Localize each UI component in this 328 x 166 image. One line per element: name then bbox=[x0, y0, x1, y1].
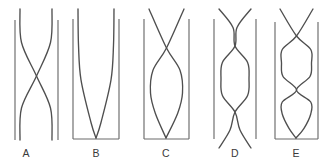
panel-e-strand-1 bbox=[280, 9, 312, 138]
panel-d: D bbox=[214, 9, 256, 159]
panel-c-strand-1 bbox=[149, 9, 183, 138]
panel-b: B bbox=[73, 9, 119, 159]
braid-pattern-figure: ABCDE bbox=[0, 0, 328, 166]
panel-c-label: C bbox=[162, 147, 170, 159]
panel-b-strand-1 bbox=[78, 9, 96, 138]
panel-e-label: E bbox=[292, 147, 299, 159]
panel-c-strand-2 bbox=[150, 9, 184, 138]
panel-e-strand-2 bbox=[281, 9, 313, 138]
panel-a-label: A bbox=[22, 147, 29, 159]
panel-e: E bbox=[275, 9, 318, 159]
panel-c: C bbox=[144, 9, 189, 159]
panel-b-strand-2 bbox=[96, 9, 114, 138]
panel-d-label: D bbox=[231, 147, 239, 159]
panel-d-strand-2 bbox=[221, 9, 251, 148]
panel-d-strand-1 bbox=[219, 9, 249, 148]
panel-b-label: B bbox=[92, 147, 99, 159]
figure-canvas: ABCDE bbox=[0, 0, 328, 166]
panel-a: A bbox=[15, 9, 58, 159]
panel-a-strand-1 bbox=[20, 9, 52, 140]
